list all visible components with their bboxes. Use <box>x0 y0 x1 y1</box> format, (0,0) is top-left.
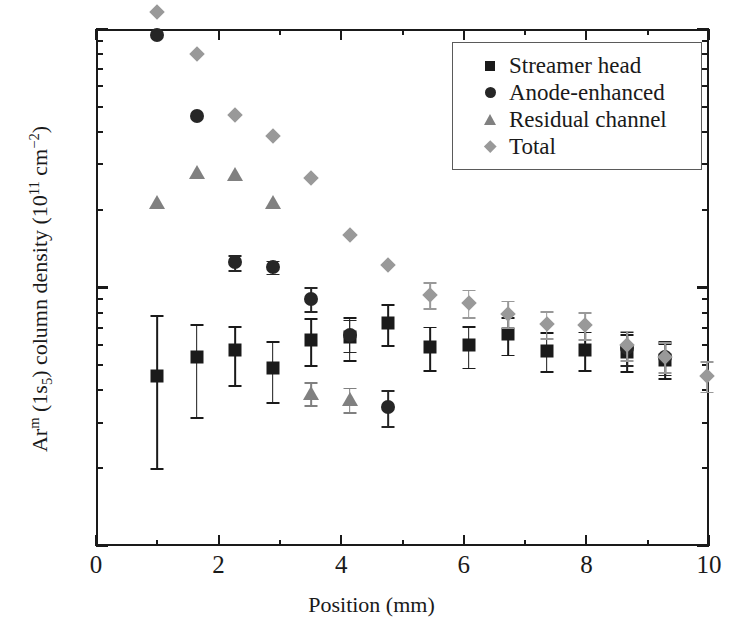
data-point-diamond <box>577 317 593 333</box>
y-minor-tick-right <box>702 106 709 108</box>
error-bar-cap <box>501 301 514 303</box>
error-bar-cap <box>305 405 318 407</box>
x-minor-tick-top <box>647 29 649 35</box>
y-minor-tick-right <box>702 68 709 70</box>
error-bar-cap <box>620 360 633 362</box>
error-bar-cap <box>659 378 672 380</box>
data-point-square <box>229 343 242 356</box>
y-minor-tick <box>96 68 103 70</box>
legend-label: Residual channel <box>509 107 667 133</box>
x-tick-label: 0 <box>90 552 103 577</box>
y-minor-tick-right <box>702 209 709 211</box>
x-major-tick <box>463 535 465 546</box>
error-bar-cap <box>343 360 356 362</box>
error-bar-cap <box>382 304 395 306</box>
data-point-circle <box>266 260 280 274</box>
y-minor-tick <box>96 53 103 55</box>
x-major-tick <box>708 535 710 546</box>
error-bar-cap <box>424 327 437 329</box>
error-bar-cap <box>305 365 318 367</box>
x-major-tick-top <box>95 29 97 40</box>
legend-label: Total <box>509 134 556 160</box>
error-bar-cap <box>462 368 475 370</box>
error-bar-cap <box>305 287 318 289</box>
legend-item-diamond[interactable]: Total <box>453 133 701 160</box>
legend-marker-diamond-icon <box>479 142 501 151</box>
x-major-tick <box>585 535 587 546</box>
x-minor-tick <box>156 540 158 546</box>
y-minor-tick-right <box>702 85 709 87</box>
data-point-square <box>540 344 553 357</box>
data-point-diamond <box>265 128 281 144</box>
error-bar-cap <box>229 270 242 272</box>
error-bar-cap <box>266 402 279 404</box>
y-minor-tick <box>96 467 103 469</box>
error-bar-cap <box>382 345 395 347</box>
data-point-square <box>579 343 592 356</box>
y-minor-tick-right <box>702 131 709 133</box>
error-bar-cap <box>382 390 395 392</box>
x-major-tick-top <box>585 29 587 40</box>
data-point-square <box>382 316 395 329</box>
circle-glyph <box>485 87 496 98</box>
x-major-tick-top <box>218 29 220 40</box>
square-glyph <box>485 61 495 71</box>
error-bar-cap <box>343 388 356 390</box>
y-minor-tick-right <box>702 53 709 55</box>
legend-item-circle[interactable]: Anode-enhanced <box>453 79 701 106</box>
error-bar-cap <box>659 375 672 377</box>
legend-marker-triangle-icon <box>479 114 501 125</box>
y-minor-tick-right <box>702 467 709 469</box>
error-bar-cap <box>424 370 437 372</box>
data-point-diamond <box>381 257 397 273</box>
y-minor-tick-right <box>702 298 709 300</box>
x-axis-title: Position (mm) <box>0 592 743 618</box>
triangle-glyph <box>484 114 496 125</box>
y-minor-tick-right <box>702 422 709 424</box>
error-bar-cap <box>305 311 318 313</box>
error-bar-cap <box>266 341 279 343</box>
data-point-triangle <box>227 167 243 181</box>
data-point-circle <box>343 328 357 342</box>
data-point-diamond <box>342 227 358 243</box>
error-bar-cap <box>424 308 437 310</box>
y-major-tick <box>96 28 108 30</box>
y-major-tick-right <box>697 286 709 288</box>
error-bar-cap <box>151 315 164 317</box>
error-bar-cap <box>343 320 356 322</box>
y-minor-tick-right <box>702 327 709 329</box>
error-bar-cap <box>540 311 553 313</box>
x-minor-tick-top <box>402 29 404 35</box>
y-minor-tick <box>96 298 103 300</box>
y-minor-tick <box>96 422 103 424</box>
error-bar-cap <box>701 392 714 394</box>
x-minor-tick <box>524 540 526 546</box>
legend-item-triangle[interactable]: Residual channel <box>453 106 701 133</box>
x-major-tick <box>95 535 97 546</box>
error-bar-cap <box>701 361 714 363</box>
data-point-square <box>305 334 318 347</box>
data-point-square <box>462 338 475 351</box>
error-bar-cap <box>620 331 633 333</box>
error-bar-cap <box>462 290 475 292</box>
error-bar-cap <box>501 355 514 357</box>
y-minor-tick-right <box>702 312 709 314</box>
legend-marker-square-icon <box>479 61 501 71</box>
y-major-tick <box>96 545 108 547</box>
error-bar-cap <box>462 326 475 328</box>
y-major-tick <box>96 286 108 288</box>
error-bar-cap <box>540 338 553 340</box>
y-minor-tick <box>96 389 103 391</box>
error-bar-cap <box>579 339 592 341</box>
x-major-tick <box>340 535 342 546</box>
error-bar-cap <box>540 371 553 373</box>
data-point-diamond <box>699 368 715 384</box>
diamond-glyph <box>484 140 496 152</box>
data-point-diamond <box>422 287 438 303</box>
y-minor-tick <box>96 312 103 314</box>
legend-item-square[interactable]: Streamer head <box>453 52 701 79</box>
x-major-tick-top <box>463 29 465 40</box>
error-bar-cap <box>190 324 203 326</box>
y-minor-tick <box>96 106 103 108</box>
error-bar-cap <box>501 328 514 330</box>
